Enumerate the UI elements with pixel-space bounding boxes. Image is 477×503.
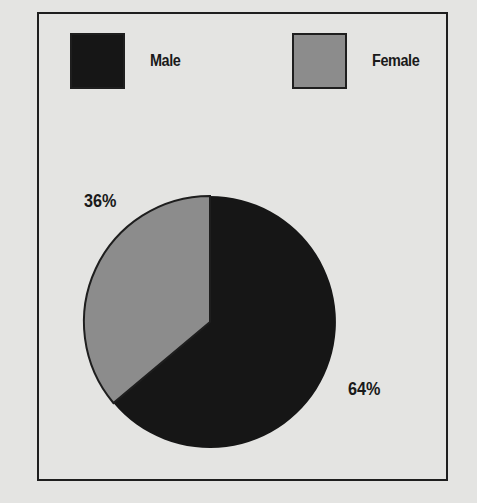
slice-label-female: 36% xyxy=(84,191,116,212)
slice-label-male: 64% xyxy=(348,379,380,400)
pie-chart xyxy=(0,0,477,503)
